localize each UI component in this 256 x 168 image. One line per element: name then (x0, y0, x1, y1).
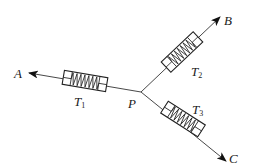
label-c: C (229, 151, 238, 166)
label-t1: T1 (74, 94, 85, 110)
label-t2: T2 (191, 64, 202, 80)
label-t3-subscript: 3 (199, 109, 203, 118)
label-a: A (13, 66, 22, 81)
spring-scale-t1 (62, 70, 108, 91)
label-t1-subscript: 1 (81, 101, 85, 110)
label-b: B (224, 13, 232, 28)
label-t2-subscript: 2 (198, 71, 202, 80)
spring-scale-force-diagram: A B C P T1 T2 T3 (0, 0, 256, 168)
label-t3: T3 (192, 102, 203, 118)
label-p: P (127, 96, 136, 111)
